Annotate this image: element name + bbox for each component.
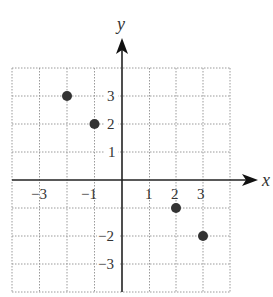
y-tick-label: −2 — [98, 228, 114, 244]
y-axis — [116, 38, 128, 292]
x-tick-label: 2 — [171, 186, 179, 202]
data-point — [62, 91, 72, 101]
x-axis-label: x — [261, 170, 270, 190]
coordinate-plane: x y −3 −1 1 2 3 3 2 1 −2 −3 — [0, 0, 273, 297]
x-tick-label: −1 — [81, 186, 97, 202]
x-tick-label: 3 — [197, 186, 205, 202]
x-axis — [12, 174, 258, 186]
data-point — [198, 231, 208, 241]
x-tick-label: 1 — [145, 186, 153, 202]
x-tick-label: −3 — [31, 186, 47, 202]
y-tick-label: 2 — [107, 116, 115, 132]
y-tick-label: 1 — [108, 144, 116, 160]
y-axis-label: y — [115, 14, 125, 34]
data-points — [62, 91, 208, 241]
y-tick-label: 3 — [107, 88, 115, 104]
data-point — [171, 203, 181, 213]
y-tick-label: −3 — [98, 256, 114, 272]
data-point — [90, 119, 100, 129]
